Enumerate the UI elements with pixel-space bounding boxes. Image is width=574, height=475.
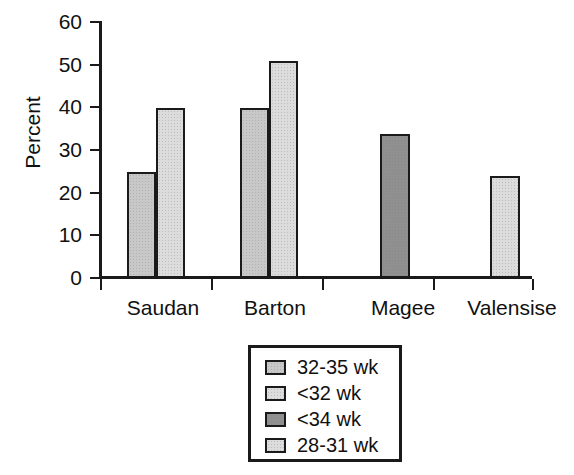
- legend-swatch: [265, 412, 286, 427]
- bar: [380, 134, 410, 278]
- legend-label: <34 wk: [297, 409, 361, 429]
- y-axis-tick-label: 0: [36, 267, 82, 288]
- y-axis-title: Percent: [22, 73, 43, 193]
- x-axis-tick: [532, 279, 534, 290]
- x-axis-category-label: Valensise: [437, 296, 574, 320]
- y-axis-tick: [90, 192, 100, 194]
- y-axis-tick-label: 60: [36, 11, 82, 32]
- legend-item: <34 wk: [251, 406, 399, 432]
- x-axis-tick: [100, 279, 102, 290]
- x-axis-tick: [211, 279, 213, 290]
- y-axis-tick: [90, 277, 100, 279]
- legend-label: <32 wk: [297, 383, 361, 403]
- bar: [240, 108, 269, 278]
- y-axis-tick-label: 30: [36, 139, 82, 160]
- plot-area: [100, 22, 532, 278]
- legend-label: 28-31 wk: [297, 435, 378, 455]
- legend-swatch: [265, 438, 286, 453]
- y-axis-tick: [90, 106, 100, 108]
- legend-swatch: [265, 360, 286, 375]
- legend-label: 32-35 wk: [297, 357, 378, 377]
- y-axis-tick: [90, 234, 100, 236]
- bar: [156, 108, 185, 278]
- legend-item: <32 wk: [251, 380, 399, 406]
- legend-item: 32-35 wk: [251, 354, 399, 380]
- x-axis-tick: [433, 279, 435, 290]
- bar: [490, 176, 520, 278]
- y-axis-tick-label: 50: [36, 54, 82, 75]
- x-axis-tick: [322, 279, 324, 290]
- legend-swatch: [265, 386, 286, 401]
- bar: [127, 172, 156, 278]
- y-axis-tick-label: 40: [36, 96, 82, 117]
- y-axis-tick-label: 10: [36, 224, 82, 245]
- legend-item: 28-31 wk: [251, 432, 399, 458]
- bar-chart-figure: Percent 0102030405060 SaudanBartonMageeV…: [0, 0, 574, 475]
- y-axis-tick: [90, 149, 100, 151]
- bar: [269, 61, 298, 278]
- y-axis-tick: [90, 64, 100, 66]
- y-axis-tick-label: 20: [36, 182, 82, 203]
- y-axis-tick: [90, 21, 100, 23]
- chart-legend: 32-35 wk<32 wk<34 wk28-31 wk: [248, 345, 402, 462]
